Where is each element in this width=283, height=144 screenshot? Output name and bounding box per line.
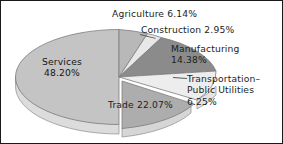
pie-label-trade: Trade 22.07% [108, 99, 173, 110]
pie-label-agriculture: Agriculture 6.14% [112, 8, 197, 19]
pie-label-construction: Construction 2.95% [141, 24, 234, 35]
pie-label-manufacturing: Manufacturing 14.38% [171, 43, 239, 66]
pie-chart-screenshot: Agriculture 6.14% Construction 2.95% Man… [0, 0, 283, 144]
pie-label-services: Services 48.20% [28, 56, 96, 79]
pie-label-transportation: Transportation– Public Utilities 6.25% [187, 73, 260, 107]
